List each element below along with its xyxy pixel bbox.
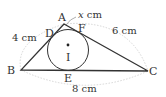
unit-cm: cm: [84, 9, 102, 20]
label-point-f: F: [78, 23, 86, 34]
label-point-b: B: [7, 65, 15, 76]
label-point-e: E: [64, 73, 72, 84]
label-point-a: A: [58, 12, 66, 23]
label-length-ac: 6 cm: [112, 26, 137, 36]
label-length-af: x cm: [78, 10, 102, 20]
label-length-bc: 8 cm: [72, 84, 97, 94]
label-point-d: D: [45, 28, 54, 39]
incenter-point: [67, 44, 70, 47]
label-length-ab: 4 cm: [12, 33, 37, 43]
label-point-c: C: [149, 66, 157, 77]
label-point-i: I: [66, 52, 70, 63]
